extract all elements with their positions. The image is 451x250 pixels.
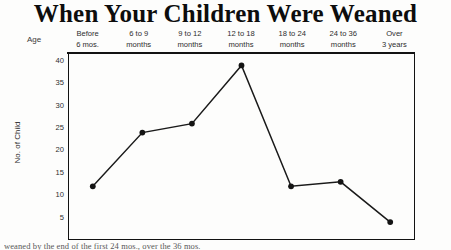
y-tick-label: 20 bbox=[40, 146, 64, 154]
category-header-line1: 6 to 9 bbox=[113, 29, 164, 40]
category-header-line2: 6 mos. bbox=[62, 40, 113, 51]
category-header-line1: 18 to 24 bbox=[267, 29, 318, 40]
line-chart-plot bbox=[68, 52, 415, 240]
category-header-line2: months bbox=[113, 40, 164, 51]
y-tick-label: 35 bbox=[40, 79, 64, 87]
y-axis-title: No. of Child bbox=[13, 113, 22, 173]
category-header: 18 to 24months bbox=[267, 29, 318, 51]
category-header-line1: Before bbox=[62, 29, 113, 40]
category-header-line1: 9 to 12 bbox=[164, 29, 215, 40]
category-header: 6 to 9months bbox=[113, 29, 164, 51]
data-point-marker bbox=[189, 121, 195, 127]
data-point-marker bbox=[239, 63, 245, 69]
category-header-line2: months bbox=[215, 40, 266, 51]
y-tick-label: 5 bbox=[40, 214, 64, 222]
y-tick-label: 30 bbox=[40, 102, 64, 110]
category-header-line2: months bbox=[164, 40, 215, 51]
page-title: When Your Children Were Weaned bbox=[0, 1, 451, 27]
category-header-line2: 3 years bbox=[369, 40, 420, 51]
category-header-line1: Over bbox=[369, 29, 420, 40]
category-header: 24 to 36months bbox=[318, 29, 369, 51]
data-point-marker bbox=[387, 219, 393, 225]
data-point-marker bbox=[139, 130, 145, 136]
category-header-line2: months bbox=[318, 40, 369, 51]
category-header-line1: 24 to 36 bbox=[318, 29, 369, 40]
y-tick-label: 40 bbox=[40, 57, 64, 65]
data-point-marker bbox=[90, 183, 96, 189]
data-point-marker bbox=[288, 183, 294, 189]
bottom-caption: weaned by the end of the first 24 mos., … bbox=[4, 241, 451, 250]
chart-page: When Your Children Were Weaned Age Befor… bbox=[0, 0, 451, 250]
y-tick-label: 15 bbox=[40, 169, 64, 177]
category-header-line2: months bbox=[267, 40, 318, 51]
category-header: 12 to 18months bbox=[215, 29, 266, 51]
data-series-line bbox=[93, 65, 390, 222]
y-tick-label: 10 bbox=[40, 191, 64, 199]
y-axis-tick-labels: 403530252015105 bbox=[40, 52, 64, 238]
category-header-row: Before6 mos.6 to 9months9 to 12months12 … bbox=[62, 29, 420, 51]
y-tick-label: 25 bbox=[40, 124, 64, 132]
age-axis-label: Age bbox=[27, 35, 41, 44]
category-header-line1: 12 to 18 bbox=[215, 29, 266, 40]
category-header: 9 to 12months bbox=[164, 29, 215, 51]
data-point-marker bbox=[338, 179, 344, 185]
data-point-markers bbox=[90, 63, 393, 225]
category-header: Over3 years bbox=[369, 29, 420, 51]
category-header: Before6 mos. bbox=[62, 29, 113, 51]
